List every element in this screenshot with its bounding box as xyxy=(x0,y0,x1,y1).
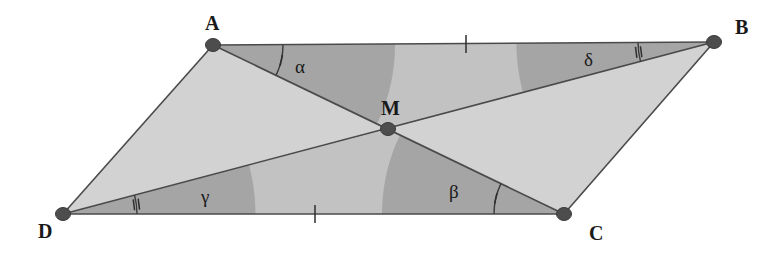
vertex-dot-A xyxy=(206,39,221,52)
vertex-dot-B xyxy=(707,36,722,49)
vertex-label-A: A xyxy=(205,12,220,34)
vertex-label-B: B xyxy=(735,16,748,38)
angle-label-gamma: γ xyxy=(200,186,209,207)
geometry-canvas: A B C D M α δ γ β xyxy=(0,0,774,257)
vertex-label-D: D xyxy=(38,220,52,242)
vertex-dot-M xyxy=(381,123,396,136)
vertex-label-C: C xyxy=(589,222,603,244)
angle-label-alpha: α xyxy=(295,56,305,77)
vertex-label-M: M xyxy=(381,97,400,119)
angle-label-beta: β xyxy=(449,181,459,202)
vertex-dot-D xyxy=(56,208,71,221)
geometry-figure: A B C D M α δ γ β xyxy=(0,0,774,257)
vertex-dot-C xyxy=(557,208,572,221)
angle-label-delta: δ xyxy=(584,49,593,70)
